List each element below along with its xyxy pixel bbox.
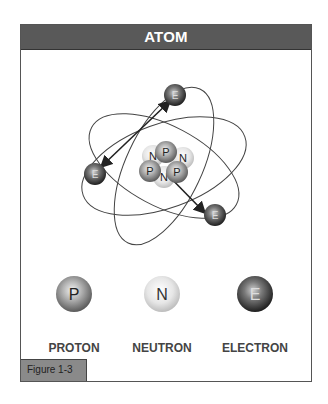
proton-legend-label: PROTON	[24, 341, 124, 355]
neutron-legend-icon: N	[144, 276, 180, 312]
svg-text:P: P	[173, 166, 180, 178]
svg-text:P: P	[69, 286, 80, 303]
legend-icons: P N E	[56, 276, 273, 312]
electron-left: E	[84, 163, 106, 185]
proton-particle: P	[139, 160, 161, 182]
neutron-legend-label: NEUTRON	[112, 341, 212, 355]
atom-diagram: N N N P P P E E E P N E	[21, 25, 311, 381]
svg-text:E: E	[92, 169, 99, 180]
proton-legend-icon: P	[56, 276, 92, 312]
svg-text:P: P	[146, 165, 153, 177]
electron-legend-icon: E	[237, 276, 273, 312]
nucleus: N N N P P P	[139, 141, 194, 188]
electron-legend-label: ELECTRON	[205, 341, 305, 355]
electron-bottom-right: E	[204, 204, 226, 226]
proton-particle: P	[166, 161, 188, 183]
figure-label-tab: Figure 1-3	[21, 359, 87, 381]
svg-text:P: P	[162, 146, 169, 158]
figure-frame: ATOM	[20, 24, 312, 382]
proton-particle: P	[155, 141, 177, 163]
svg-text:N: N	[156, 286, 168, 303]
svg-text:E: E	[212, 210, 219, 221]
electron-top: E	[164, 84, 186, 106]
figure-label: Figure 1-3	[27, 364, 73, 375]
svg-text:E: E	[172, 90, 179, 101]
svg-text:E: E	[250, 286, 261, 303]
